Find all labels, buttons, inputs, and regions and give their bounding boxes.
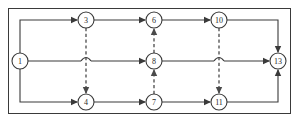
node-4-circle[interactable] [78, 94, 94, 110]
node-6[interactable]: 6 [146, 12, 162, 28]
node-3[interactable]: 3 [78, 12, 94, 28]
edge-1-to-3 [20, 17, 78, 53]
dummy-edge-10-to-11-arrowhead [216, 87, 222, 94]
edge-1-to-4 [20, 69, 78, 105]
edge-11-to-13-arrowhead [275, 69, 281, 76]
node-11-circle[interactable] [211, 94, 227, 110]
edge-4-to-7 [94, 99, 146, 105]
dummy-edge-3-to-4-arrowhead [83, 87, 89, 94]
edge-7-to-11-arrowhead [204, 99, 211, 105]
edge-4-to-7-arrowhead [139, 99, 146, 105]
dummy-edge-8-to-6 [151, 28, 157, 53]
edge-7-to-11 [162, 99, 211, 105]
node-7[interactable]: 7 [146, 94, 162, 110]
network-diagram: 1 3 6 10 8 4 7 11 [0, 0, 299, 122]
node-1[interactable]: 1 [12, 53, 28, 69]
edge-11-to-13-line [227, 70, 278, 102]
dummy-edge-7-to-8 [151, 69, 157, 94]
edge-3-to-6-arrowhead [139, 17, 146, 23]
edge-3-to-6 [94, 17, 146, 23]
edge-6-to-10 [162, 17, 211, 23]
edge-1-to-3-line [20, 20, 77, 53]
edge-1-to-4-arrowhead [71, 99, 78, 105]
node-3-circle[interactable] [78, 12, 94, 28]
node-11[interactable]: 11 [211, 94, 227, 110]
node-13-circle[interactable] [270, 53, 286, 69]
edge-1-to-8-arrowhead [139, 58, 146, 64]
edge-8-to-13 [162, 58, 270, 65]
node-1-circle[interactable] [12, 53, 28, 69]
edge-11-to-13 [227, 69, 281, 102]
edge-1-to-8 [28, 58, 146, 65]
edge-10-to-13-arrowhead [275, 46, 281, 53]
edge-10-to-13 [227, 20, 281, 53]
edge-6-to-10-arrowhead [204, 17, 211, 23]
edge-1-to-4-line [20, 69, 77, 102]
dummy-edge-3-to-4 [83, 28, 89, 94]
node-6-circle[interactable] [146, 12, 162, 28]
node-7-circle[interactable] [146, 94, 162, 110]
network-diagram-canvas: 1 3 6 10 8 4 7 11 [0, 0, 299, 122]
dummy-edge-10-to-11 [216, 28, 222, 94]
node-8[interactable]: 8 [146, 53, 162, 69]
dummy-edge-7-to-8-arrowhead [151, 69, 157, 76]
edge-8-to-13-arrowhead [263, 58, 270, 64]
node-10-circle[interactable] [211, 12, 227, 28]
edge-10-to-13-line [227, 20, 278, 52]
node-10[interactable]: 10 [211, 12, 227, 28]
node-13[interactable]: 13 [270, 53, 286, 69]
dummy-edge-8-to-6-arrowhead [151, 28, 157, 35]
node-8-circle[interactable] [146, 53, 162, 69]
edge-1-to-3-arrowhead [71, 17, 78, 23]
node-4[interactable]: 4 [78, 94, 94, 110]
